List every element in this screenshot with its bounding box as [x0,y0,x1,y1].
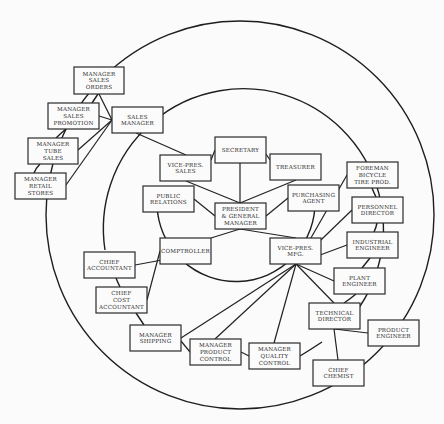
org-box-mgr-product-control: MANAGERPRODUCTCONTROL [190,339,241,365]
org-box-treasurer: TREASURER [270,154,321,180]
connector-line [266,154,270,160]
org-box-industrial-engineer: INDUSTRIALENGINEER [347,232,398,258]
box-label-line: MANAGER [224,220,257,226]
org-box-chief-chemist: CHIEFCHEMIST [313,360,364,386]
box-label-line: ENGINEER [355,245,390,251]
box-label-line: AGENT [301,198,324,204]
box-label-line: DIRECTOR [361,210,395,216]
org-box-vp-sales: VICE-PRES.SALES [160,155,211,181]
connector-line [215,264,296,339]
box-label-line: PRODUCT [378,327,409,333]
connector-line [334,329,338,360]
org-box-mgr-sales-promotion: MANAGERSALESPROMOTION [48,103,99,129]
ring-segment [34,164,40,173]
connector-line [334,329,368,333]
box-label-line: MANAGER [83,71,116,77]
ring-segment [374,223,377,232]
box-label-line: QUALITY [261,353,289,359]
connector-line [240,229,296,238]
box-label-line: TUBE [44,148,61,154]
ring-segment [344,294,356,303]
box-label-line: MFG. [287,251,303,257]
org-box-mgr-retail-stores: MANAGERRETAILSTORES [15,173,66,199]
connector-line [296,264,334,281]
org-box-technical-director: TECHNICALDIRECTOR [309,303,360,329]
box-label-line: SALES [43,155,64,161]
ring-segment [136,313,144,325]
box-label-line: MANAGER [139,332,172,338]
connector-line [194,199,215,216]
org-chart-diagram: MANAGERSALESORDERSMANAGERSALESPROMOTIONS… [0,0,444,424]
ring-segment [362,258,370,268]
connector-line [241,352,249,356]
org-box-comptroller: COMPTROLLER [160,238,211,264]
box-label-line: PLANT [349,275,370,281]
box-label-line: FOREMAN [356,165,389,171]
connector-line [211,150,215,160]
box-label-line: ENGINEER [376,333,411,339]
box-label-line: STORES [28,190,53,196]
connector-line [181,341,190,352]
org-box-mgr-tube-sales: MANAGERTUBESALES [28,138,78,164]
org-box-president: PRESIDENT& GENERALMANAGER [215,203,266,229]
box-label-line: COMPTROLLER [161,248,210,254]
box-label-line: VICE-PRES. [276,245,313,251]
org-box-chief-cost-accountant: CHIEFCOSTACCOUNTANT [96,287,147,313]
connector-line [147,251,160,300]
box-label-line: VICE-PRES. [166,162,203,168]
box-label-line: RELATIONS [150,199,187,205]
box-label-line: SHIPPING [140,338,172,344]
box-label-line: ACCOUNTANT [86,265,132,271]
connector-line [296,264,334,303]
box-label-line: ACCOUNTANT [98,304,144,310]
box-label-line: CHIEF [99,259,119,265]
box-label-line: MANAGER [121,120,154,126]
box-label-line: PRESIDENT [222,206,259,212]
ring-segment [116,278,120,287]
box-label-line: CONTROL [259,360,290,366]
org-box-foreman-bicycle: FOREMANBICYCLETIRE PROD. [347,162,398,188]
box-label-line: ORDERS [86,84,113,90]
box-label-line: PUBLIC [157,193,181,199]
box-label-line: PRODUCT [200,349,231,355]
org-box-mgr-quality-control: MANAGERQUALITYCONTROL [249,343,300,369]
ring-segment [300,342,322,356]
box-label-line: MANAGER [24,176,57,182]
org-box-mgr-shipping: MANAGERSHIPPING [130,325,181,351]
box-label-line: CHIEF [328,367,348,373]
box-label-line: CHIEF [111,290,131,296]
box-label-line: SALES [175,168,196,174]
box-label-line: MANAGER [258,346,291,352]
box-label-line: BICYCLE [359,172,387,178]
org-box-mgr-sales-orders: MANAGERSALESORDERS [74,67,124,94]
org-box-product-engineer: PRODUCTENGINEER [368,320,419,346]
org-box-secretary: SECRETARY [215,137,266,163]
connector-line [266,198,288,216]
box-label-line: TIRE PROD. [354,179,391,185]
ring-segment [372,188,376,197]
org-box-vp-mfg: VICE-PRES.MFG. [270,238,321,264]
box-label-line: CHEMIST [323,373,353,379]
box-label-line: COST [113,297,130,303]
box-label-line: SALES [63,113,84,119]
box-label-line: SECRETARY [222,147,260,153]
org-box-chief-accountant: CHIEFACCOUNTANT [84,252,135,278]
org-box-personnel-director: PERSONNELDIRECTOR [352,197,403,223]
box-label-line: RETAIL [29,183,52,189]
ring-segment [92,94,98,103]
connector-line [136,133,186,155]
box-label-line: PERSONNEL [358,204,398,210]
box-label-line: SALES [127,114,148,120]
box-label-line: MANAGER [57,106,90,112]
box-label-line: SALES [89,77,110,83]
box-label-line: & GENERAL [221,213,259,219]
org-box-purchasing-agent: PURCHASINGAGENT [288,185,339,211]
box-label-line: MANAGER [199,342,232,348]
position-boxes-layer: MANAGERSALESORDERSMANAGERSALESPROMOTIONS… [15,67,419,386]
box-label-line: DIRECTOR [318,316,352,322]
box-label-line: TREASURER [276,164,316,170]
box-label-line: MANAGER [37,141,70,147]
org-box-plant-engineer: PLANTENGINEER [334,268,385,294]
org-box-sales-manager: SALESMANAGER [112,107,163,133]
connector-line [211,229,240,238]
